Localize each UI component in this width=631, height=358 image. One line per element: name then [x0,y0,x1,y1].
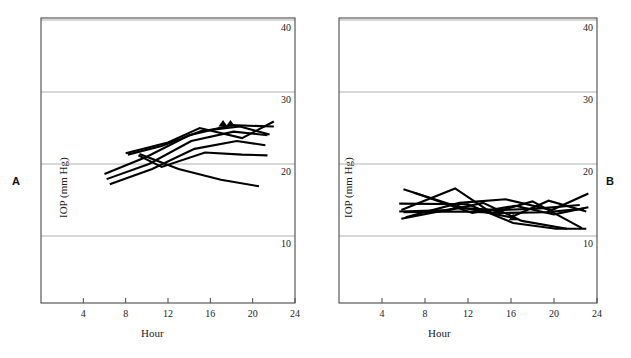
ytick-label-10: 10 [281,238,291,249]
xtick-label-16: 16 [506,308,516,319]
plot-frame [339,18,597,303]
ytick-label-20: 20 [281,166,291,177]
ytick-label-20: 20 [583,166,593,177]
xtick-label-20: 20 [549,308,559,319]
panel-a: A IOP (mm Hg) Hour 102030404812162024 [0,0,311,358]
xtick-label-16: 16 [205,308,215,319]
xtick-label-20: 20 [248,308,258,319]
figure-root: A IOP (mm Hg) Hour 102030404812162024 B … [0,0,631,358]
series-line-subject-5 [128,127,270,155]
ytick-label-10: 10 [583,238,593,249]
xtick-label-24: 24 [592,308,602,319]
ytick-label-40: 40 [583,22,593,33]
xtick-label-8: 8 [423,308,428,319]
data-series-group [105,120,274,186]
data-marker-2 [226,120,235,127]
data-marker-1 [218,120,227,127]
xtick-label-4: 4 [81,308,86,319]
panel-b-plot: 102030404812162024 [311,0,631,358]
panel-a-plot: 102030404812162024 [0,0,311,358]
ytick-label-40: 40 [281,22,291,33]
xtick-label-12: 12 [463,308,473,319]
xtick-label-24: 24 [290,308,300,319]
panel-b: B IOP (mm Hg) Hour 102030404812162024 [311,0,631,358]
data-series-group [399,188,588,228]
xtick-label-4: 4 [380,308,385,319]
xtick-label-12: 12 [163,308,173,319]
ytick-label-30: 30 [583,94,593,105]
xtick-label-8: 8 [123,308,128,319]
ytick-label-30: 30 [281,94,291,105]
